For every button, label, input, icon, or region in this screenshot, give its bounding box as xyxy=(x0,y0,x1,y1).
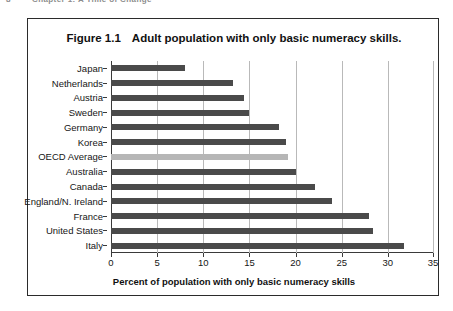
bar-italy xyxy=(111,243,404,249)
bar-row xyxy=(111,164,434,179)
category-label-text: United States xyxy=(46,225,103,236)
category-tick xyxy=(103,216,107,217)
xlabel-25: 25 xyxy=(336,257,347,268)
bar-series xyxy=(111,61,434,253)
category-label-text: France xyxy=(73,211,103,222)
xlabel-5: 5 xyxy=(154,257,159,268)
category-label-france: France xyxy=(29,209,107,224)
category-label-japan: Japan xyxy=(29,61,107,76)
category-tick xyxy=(103,201,107,202)
category-tick xyxy=(103,245,107,246)
bar-austria xyxy=(111,95,244,101)
category-label-text: England/N. Ireland xyxy=(24,196,103,207)
bar-row xyxy=(111,61,434,76)
bar-australia xyxy=(111,169,296,175)
bar-row xyxy=(111,120,434,135)
bar-oecd-average xyxy=(111,154,288,160)
category-label-england-n-ireland: England/N. Ireland xyxy=(29,194,107,209)
bar-row xyxy=(111,179,434,194)
category-tick xyxy=(103,112,107,113)
category-label-text: Sweden xyxy=(69,107,103,118)
category-label-text: Canada xyxy=(70,181,103,192)
category-label-text: Netherlands xyxy=(52,78,103,89)
figure-number: Figure 1.1 xyxy=(67,32,121,44)
category-label-canada: Canada xyxy=(29,179,107,194)
category-tick xyxy=(103,186,107,187)
xlabel-10: 10 xyxy=(198,257,209,268)
bar-row xyxy=(111,223,434,238)
figure-caption: Adult population with only basic numerac… xyxy=(132,32,402,44)
bar-row xyxy=(111,209,434,224)
category-tick xyxy=(103,171,107,172)
category-label-text: Australia xyxy=(66,166,103,177)
category-label-text: OECD Average xyxy=(38,151,103,162)
category-label-united-states: United States xyxy=(29,223,107,238)
page-header-text: 8Chapter 1: A Time of Change xyxy=(6,0,446,4)
category-label-text: Austria xyxy=(73,92,103,103)
category-label-text: Korea xyxy=(78,137,103,148)
bar-korea xyxy=(111,139,286,145)
category-label-text: Italy xyxy=(86,240,103,251)
category-tick xyxy=(103,83,107,84)
category-axis-labels: Japan Netherlands Austria Sweden Germany… xyxy=(29,61,107,253)
category-label-sweden: Sweden xyxy=(29,105,107,120)
figure-container: Figure 1.1Adult population with only bas… xyxy=(27,18,439,296)
xlabel-35: 35 xyxy=(428,257,439,268)
figure-title: Figure 1.1Adult population with only bas… xyxy=(28,32,440,44)
page-number: 8 xyxy=(6,0,32,4)
category-tick xyxy=(103,230,107,231)
xlabel-15: 15 xyxy=(244,257,255,268)
bar-row xyxy=(111,135,434,150)
category-tick xyxy=(103,156,107,157)
bar-row xyxy=(111,76,434,91)
bar-england-n-ireland xyxy=(111,198,332,204)
category-label-germany: Germany xyxy=(29,120,107,135)
xlabel-0: 0 xyxy=(108,257,113,268)
category-label-text: Japan xyxy=(77,63,103,74)
bar-row xyxy=(111,194,434,209)
bar-canada xyxy=(111,184,315,190)
bar-germany xyxy=(111,124,279,130)
bar-row xyxy=(111,91,434,106)
bar-netherlands xyxy=(111,80,233,86)
bar-united-states xyxy=(111,228,373,234)
xlabel-30: 30 xyxy=(383,257,394,268)
category-label-text: Germany xyxy=(64,122,103,133)
bar-row xyxy=(111,150,434,165)
category-label-australia: Australia xyxy=(29,164,107,179)
category-label-korea: Korea xyxy=(29,135,107,150)
bar-row xyxy=(111,238,434,253)
page-running-header: 8Chapter 1: A Time of Change xyxy=(0,0,453,11)
category-label-netherlands: Netherlands xyxy=(29,76,107,91)
x-axis-title: Percent of population with only basic nu… xyxy=(28,276,440,287)
bar-sweden xyxy=(111,110,249,116)
category-tick xyxy=(103,68,107,69)
bar-row xyxy=(111,105,434,120)
category-label-oecd-average: OECD Average xyxy=(29,150,107,165)
running-title: Chapter 1: A Time of Change xyxy=(32,0,152,4)
category-tick xyxy=(103,97,107,98)
xlabel-20: 20 xyxy=(290,257,301,268)
bar-chart-plot-area: Japan Netherlands Austria Sweden Germany… xyxy=(111,61,434,253)
value-axis-labels: 0 5 10 15 20 25 30 35 xyxy=(111,257,434,271)
bar-france xyxy=(111,213,369,219)
category-tick xyxy=(103,142,107,143)
bar-japan xyxy=(111,65,185,71)
category-label-austria: Austria xyxy=(29,91,107,106)
category-tick xyxy=(103,127,107,128)
category-label-italy: Italy xyxy=(29,238,107,253)
